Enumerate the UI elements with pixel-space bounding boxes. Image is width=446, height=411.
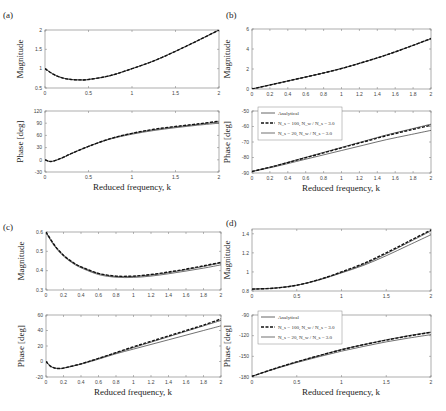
phase-axis-label: Phase [deg] bbox=[16, 325, 26, 367]
axes-frame bbox=[252, 229, 431, 291]
phase-subplot: 00.20.40.60.811.21.41.61.82-200204060Pha… bbox=[16, 312, 223, 385]
magnitude-axis-label: Magnitude bbox=[15, 40, 25, 79]
legend-entry: Analytical bbox=[278, 111, 299, 116]
phase-subplot: 00.511.52-180-150-120-90Phase [deg]Analy… bbox=[222, 311, 433, 385]
y-tick-label: 0 bbox=[246, 86, 249, 92]
x-tick-label: 1.4 bbox=[165, 292, 172, 298]
magnitude-subplot: 00.511.520.811.21.4Magnitude bbox=[222, 229, 433, 299]
y-tick-label: -80 bbox=[242, 154, 249, 160]
x-tick-label: 0 bbox=[251, 175, 254, 181]
x-tick-label: 1.8 bbox=[200, 379, 207, 385]
y-tick-label: 0.4 bbox=[36, 267, 43, 273]
x-tick-label: 0 bbox=[251, 91, 254, 97]
y-tick-label: -90 bbox=[242, 170, 249, 176]
x-tick-label: 1.4 bbox=[374, 91, 381, 97]
y-tick-label: 30 bbox=[36, 144, 42, 150]
x-tick-label: 2 bbox=[430, 91, 433, 97]
x-tick-label: 0.6 bbox=[95, 379, 102, 385]
series-line-0 bbox=[252, 39, 431, 90]
x-tick-label: 0.4 bbox=[284, 175, 291, 181]
y-tick-label: -20 bbox=[36, 374, 43, 380]
y-tick-label: 120 bbox=[34, 108, 43, 114]
x-tick-label: 0.6 bbox=[302, 175, 309, 181]
x-tick-label: 2 bbox=[218, 90, 221, 96]
y-tick-label: 0.6 bbox=[36, 229, 43, 235]
y-tick-label: 2 bbox=[39, 27, 42, 33]
y-tick-label: 0.5 bbox=[35, 85, 42, 91]
x-tick-label: 2 bbox=[430, 293, 433, 299]
x-tick-label: 1.2 bbox=[148, 292, 155, 298]
x-tick-label: 1.2 bbox=[148, 379, 155, 385]
x-tick-label: 1.5 bbox=[383, 293, 390, 299]
phase-subplot: 00.20.40.60.811.21.41.61.82-90-80-70-60-… bbox=[222, 107, 433, 181]
x-tick-label: 1.6 bbox=[392, 91, 399, 97]
panel-label: (b) bbox=[226, 10, 237, 20]
x-axis-label: Reduced frequency, k bbox=[302, 183, 381, 193]
phase-subplot: 00.511.52-300306090120Phase [deg] bbox=[15, 108, 221, 180]
y-tick-label: -70 bbox=[242, 139, 249, 145]
magnitude-axis-label: Magnitude bbox=[16, 242, 26, 281]
y-tick-label: -120 bbox=[239, 332, 249, 338]
axes-frame bbox=[46, 232, 221, 290]
y-tick-label: -90 bbox=[242, 312, 249, 318]
y-tick-label: -60 bbox=[242, 123, 249, 129]
x-tick-label: 1 bbox=[340, 293, 343, 299]
magnitude-subplot: 00.20.40.60.811.21.41.61.820.30.40.50.6M… bbox=[16, 229, 223, 298]
series-line-1 bbox=[252, 39, 431, 90]
x-axis-label: Reduced frequency, k bbox=[93, 182, 172, 192]
x-tick-label: 0.2 bbox=[266, 91, 273, 97]
x-tick-label: 0.8 bbox=[320, 175, 327, 181]
x-tick-label: 0.4 bbox=[284, 91, 291, 97]
y-tick-label: 0.8 bbox=[242, 288, 249, 294]
panel-a: (a)00.511.520.511.52Magnitude00.511.52-3… bbox=[3, 10, 221, 192]
x-tick-label: 0.5 bbox=[85, 90, 92, 96]
phase-axis-label: Phase [deg] bbox=[15, 120, 25, 162]
x-tick-label: 2 bbox=[220, 379, 223, 385]
panel-label: (c) bbox=[3, 222, 13, 232]
y-tick-label: -30 bbox=[35, 169, 42, 175]
x-tick-label: 0.8 bbox=[113, 292, 120, 298]
y-tick-label: 1.5 bbox=[35, 46, 42, 52]
y-tick-label: 20 bbox=[37, 343, 43, 349]
x-tick-label: 1.5 bbox=[172, 90, 179, 96]
x-tick-label: 1 bbox=[132, 379, 135, 385]
y-tick-label: 40 bbox=[37, 327, 43, 333]
panel-d: (d)00.511.520.811.21.4Magnitude00.511.52… bbox=[222, 218, 433, 397]
y-tick-label: -50 bbox=[242, 108, 249, 114]
x-tick-label: 2 bbox=[218, 174, 221, 180]
x-tick-label: 0.4 bbox=[78, 379, 85, 385]
x-tick-label: 1.5 bbox=[172, 174, 179, 180]
x-tick-label: 1.6 bbox=[392, 175, 399, 181]
panel-label: (d) bbox=[226, 218, 237, 228]
y-tick-label: 1 bbox=[39, 65, 42, 71]
y-tick-label: 4 bbox=[246, 46, 249, 52]
x-tick-label: 1.4 bbox=[165, 379, 172, 385]
axes-frame bbox=[252, 29, 431, 89]
magnitude-axis-label: Magnitude bbox=[222, 241, 232, 280]
magnitude-subplot: 00.511.520.511.52Magnitude bbox=[15, 27, 221, 96]
x-tick-label: 0 bbox=[44, 90, 47, 96]
y-tick-label: 0.3 bbox=[36, 287, 43, 293]
x-tick-label: 2 bbox=[220, 292, 223, 298]
x-tick-label: 1.4 bbox=[374, 175, 381, 181]
x-tick-label: 1 bbox=[340, 91, 343, 97]
x-tick-label: 2 bbox=[430, 379, 433, 385]
panel-label: (a) bbox=[3, 10, 13, 20]
x-tick-label: 1 bbox=[131, 90, 134, 96]
x-tick-label: 0 bbox=[45, 292, 48, 298]
series-line-0 bbox=[46, 232, 221, 277]
x-tick-label: 1.2 bbox=[356, 175, 363, 181]
series-line-1 bbox=[252, 230, 431, 289]
x-tick-label: 1.8 bbox=[410, 91, 417, 97]
y-tick-label: 60 bbox=[36, 132, 42, 138]
x-tick-label: 0.5 bbox=[293, 379, 300, 385]
x-tick-label: 0.8 bbox=[320, 91, 327, 97]
series-line-2 bbox=[45, 30, 219, 80]
x-tick-label: 1 bbox=[132, 292, 135, 298]
series-line-0 bbox=[45, 122, 219, 162]
panel-b: (b)00.20.40.60.811.21.41.61.820246Magnit… bbox=[222, 10, 433, 193]
x-axis-label: Reduced frequency, k bbox=[302, 387, 381, 397]
x-tick-label: 0.2 bbox=[60, 379, 67, 385]
x-tick-label: 1 bbox=[131, 174, 134, 180]
y-tick-label: 6 bbox=[246, 26, 249, 32]
